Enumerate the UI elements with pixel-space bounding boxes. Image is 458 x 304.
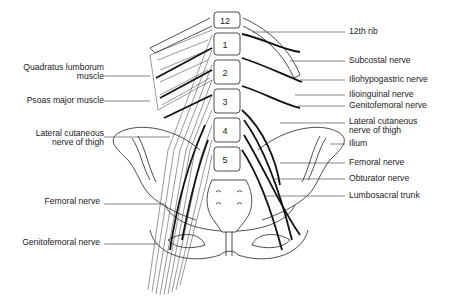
label-line: Subcostal nerve [349,56,411,65]
label-12th-rib: 12th rib [349,27,378,36]
right-nerves [242,34,302,250]
vertebra-label: 2 [222,68,227,78]
label-lateral-cutaneous-right: Lateral cutaneous nerve of thigh [349,117,417,136]
label-line: Femoral nerve [349,158,404,167]
vertebra-label: 12 [220,16,230,26]
label-line: Obturator nerve [349,174,409,183]
label-genitofemoral-right: Genitofemoral nerve [349,101,427,110]
label-line: muscle [8,72,104,81]
sacrum [207,180,252,232]
label-subcostal: Subcostal nerve [349,56,411,65]
label-line: Ilium [349,139,367,148]
label-femoral-left: Femoral nerve [8,197,100,206]
label-ilioinguinal: Ilioinguinal nerve [349,90,414,99]
vertebra-label: 3 [222,97,227,107]
label-ilium: Ilium [349,139,367,148]
label-line: nerve of thigh [8,138,104,147]
label-obturator: Obturator nerve [349,174,409,183]
label-line: Psoas major muscle [8,96,104,105]
vertebra-label: 5 [222,155,227,165]
label-psoas-major: Psoas major muscle [8,96,104,105]
figure-caption [150,290,330,296]
lumbar-plexus-diagram: 12 1 2 3 4 5 [0,0,458,304]
label-line: nerve of thigh [349,126,417,135]
label-iliohypogastric: Iliohypogastric nerve [349,75,428,84]
vertebral-column [214,12,240,171]
label-lumbosacral-trunk: Lumbosacral trunk [349,191,420,200]
label-femoral-right: Femoral nerve [349,158,404,167]
label-quadratus-lumborum: Quadratus lumborum muscle [8,63,104,82]
vertebra-label: 4 [222,126,227,136]
label-line: Genitofemoral nerve [349,101,427,110]
label-line: Genitofemoral nerve [8,238,100,247]
label-line: Iliohypogastric nerve [349,75,428,84]
label-line: Ilioinguinal nerve [349,90,414,99]
psoas-quadratus-muscles [148,30,212,295]
label-line: Lumbosacral trunk [349,191,420,200]
label-genitofemoral-left: Genitofemoral nerve [8,238,100,247]
label-lateral-cutaneous-left: Lateral cutaneous nerve of thigh [8,129,104,148]
label-line: 12th rib [349,27,378,36]
vertebra-label: 1 [222,40,227,50]
label-line: Femoral nerve [8,197,100,206]
